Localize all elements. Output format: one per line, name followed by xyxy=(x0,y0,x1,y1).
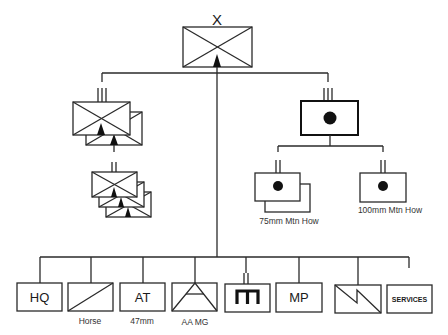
support-unit-engineer xyxy=(225,273,270,312)
signal-box xyxy=(335,285,381,313)
infantry-regiment-unit xyxy=(73,88,142,152)
infantry-battalion-unit xyxy=(92,162,151,217)
division-unit: X xyxy=(183,11,252,67)
artillery-dot-icon xyxy=(378,181,388,191)
aamg-label: AA MG xyxy=(182,317,209,327)
artillery-battalion-75mm: 75mm Mtn How xyxy=(255,160,320,226)
division-echelon-mark: X xyxy=(212,11,222,28)
artillery-100mm-label: 100mm Mtn How xyxy=(358,205,423,215)
support-unit-horse: Horse xyxy=(68,283,113,326)
support-unit-at: AT 47mm xyxy=(120,283,165,326)
artillery-dot-icon xyxy=(324,112,337,125)
mp-text: MP xyxy=(289,290,309,305)
artillery-75mm-label: 75mm Mtn How xyxy=(259,216,319,226)
artillery-regiment-unit xyxy=(278,88,383,152)
support-unit-hq: HQ xyxy=(17,283,62,311)
support-unit-signal xyxy=(335,285,381,313)
artillery-dot-icon xyxy=(273,181,283,191)
support-unit-mp: MP xyxy=(276,283,322,312)
at-text: AT xyxy=(135,290,151,305)
horse-label: Horse xyxy=(79,316,102,326)
anti-aircraft-box xyxy=(172,283,217,311)
hq-text: HQ xyxy=(30,290,50,305)
at-label: 47mm xyxy=(130,316,154,326)
services-text: SERVICES xyxy=(392,296,428,303)
support-unit-aamg: AA MG xyxy=(172,283,217,327)
support-unit-services: SERVICES xyxy=(387,285,432,313)
artillery-battalion-100mm: 100mm Mtn How xyxy=(358,160,423,215)
org-chart-diagram: X xyxy=(0,0,448,335)
